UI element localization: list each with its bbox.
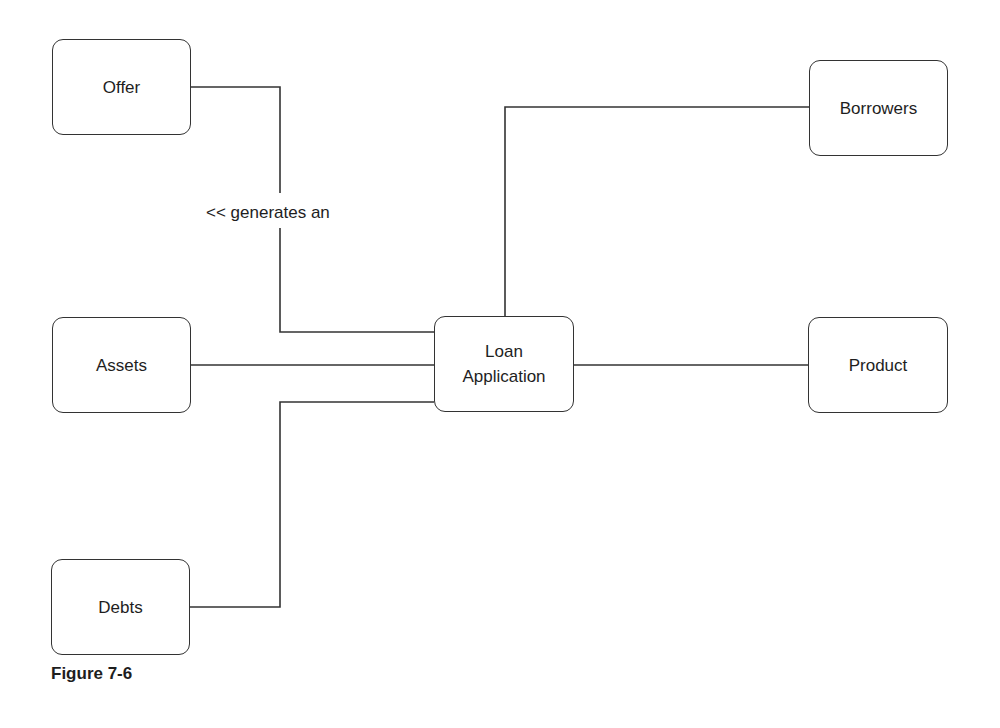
node-debts-label: Debts (98, 595, 142, 620)
node-borrowers: Borrowers (809, 60, 948, 156)
node-assets: Assets (52, 317, 191, 413)
figure-caption: Figure 7-6 (51, 664, 132, 684)
node-borrowers-label: Borrowers (840, 96, 917, 121)
node-product-label: Product (849, 353, 908, 378)
node-offer: Offer (52, 39, 191, 135)
node-debts: Debts (51, 559, 190, 655)
node-loan-application-label: Loan Application (462, 339, 545, 389)
node-offer-label: Offer (103, 75, 140, 100)
connector-debts-loan (190, 402, 434, 607)
node-loan-application: Loan Application (434, 316, 574, 412)
connector-offer-loan-lower (280, 228, 434, 332)
connector-borrowers-loan (505, 107, 809, 316)
node-assets-label: Assets (96, 353, 147, 378)
node-product: Product (808, 317, 948, 413)
connector-offer-loan-upper (191, 87, 280, 193)
edge-label-generates: << generates an (204, 203, 332, 223)
